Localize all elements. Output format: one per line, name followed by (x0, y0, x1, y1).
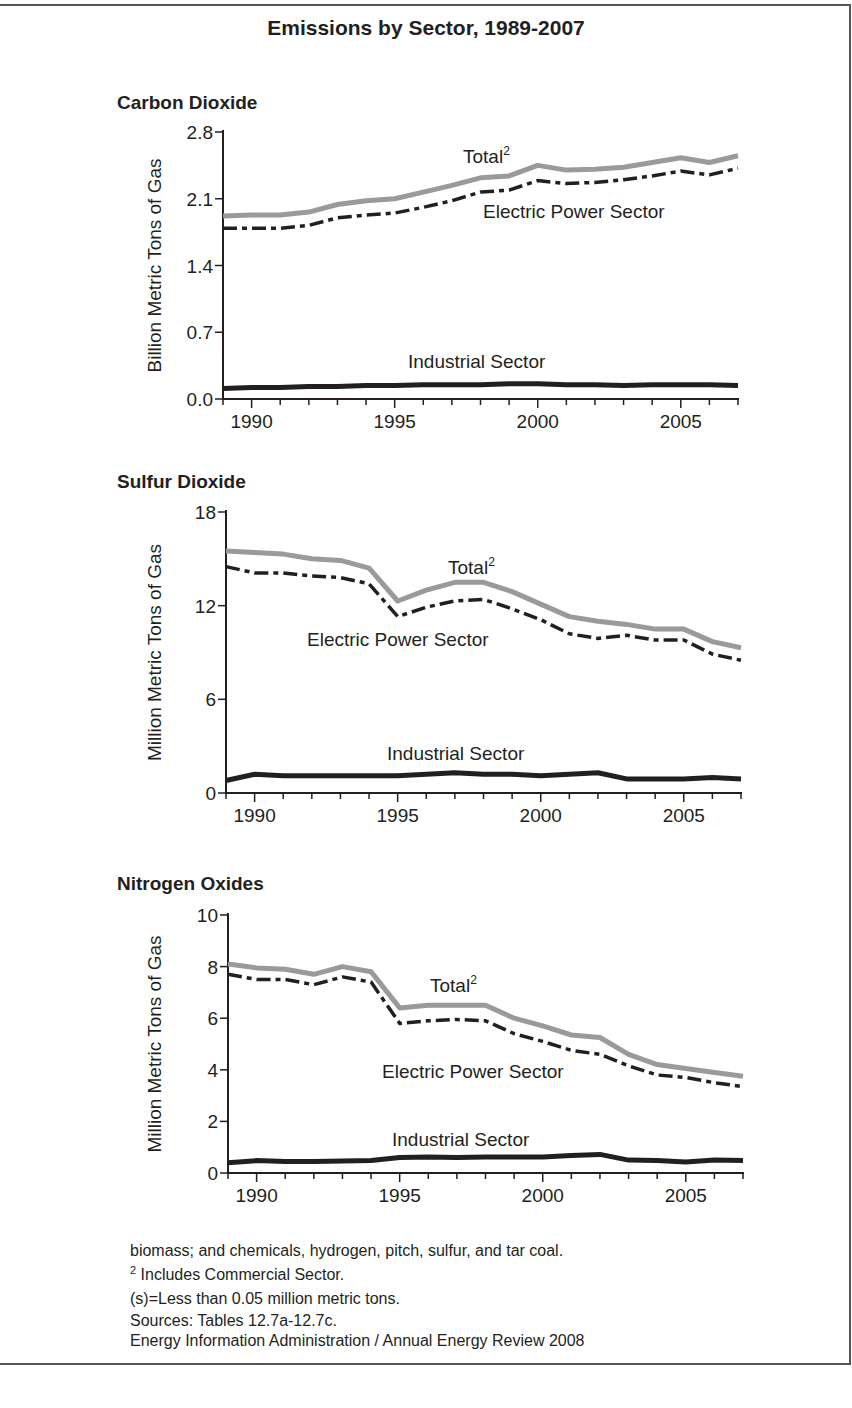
footnote-line-2: 2 Includes Commercial Sector. (130, 1263, 584, 1287)
y-tick-label: 18 (195, 502, 216, 523)
chart-sulfur-dioxide: 0612181990199520002005Million Metric Ton… (0, 495, 852, 845)
series-industrial-sector (228, 1154, 743, 1162)
y-axis-title: Million Metric Tons of Gas (144, 935, 165, 1152)
y-tick-label: 6 (207, 1008, 218, 1029)
series-label: Industrial Sector (392, 1129, 530, 1150)
x-tick-label: 2005 (663, 805, 705, 826)
footnotes: biomass; and chemicals, hydrogen, pitch,… (130, 1239, 584, 1351)
x-tick-label: 2000 (520, 805, 562, 826)
footnote-line-3: (s)=Less than 0.05 million metric tons. (130, 1287, 584, 1311)
y-tick-label: 12 (195, 596, 216, 617)
y-tick-label: 2.1 (187, 189, 213, 210)
x-tick-label: 2000 (522, 1185, 564, 1206)
x-tick-label: 1995 (377, 805, 419, 826)
panel-title-nitrogen-oxides: Nitrogen Oxides (117, 873, 264, 895)
series-label: Total2 (463, 144, 510, 167)
series-label: Electric Power Sector (382, 1061, 564, 1082)
x-tick-label: 1990 (235, 1185, 277, 1206)
y-tick-label: 0 (207, 1163, 218, 1184)
footnote-line-1: biomass; and chemicals, hydrogen, pitch,… (130, 1239, 584, 1263)
y-axis-title: Million Metric Tons of Gas (144, 544, 165, 761)
series-industrial-sector (226, 773, 741, 781)
y-axis-title: Billion Metric Tons of Gas (144, 158, 165, 372)
series-label: Electric Power Sector (483, 201, 665, 222)
x-tick-label: 2005 (665, 1185, 707, 1206)
series-industrial-sector (223, 384, 738, 389)
panel-title-sulfur-dioxide: Sulfur Dioxide (117, 471, 246, 493)
x-tick-label: 2000 (517, 411, 559, 432)
series-label: Industrial Sector (408, 351, 546, 372)
x-tick-label: 1990 (230, 411, 272, 432)
x-tick-label: 1995 (379, 1185, 421, 1206)
y-tick-label: 2 (207, 1111, 218, 1132)
series-label: Total2 (430, 973, 477, 996)
y-tick-label: 0 (205, 783, 216, 804)
series-label: Electric Power Sector (307, 629, 489, 650)
x-tick-label: 2005 (660, 411, 702, 432)
y-tick-label: 10 (197, 905, 218, 926)
footnote-publisher: Energy Information Administration / Annu… (130, 1331, 584, 1351)
y-tick-label: 4 (207, 1060, 218, 1081)
y-tick-label: 0.7 (187, 322, 213, 343)
chart-carbon-dioxide: 0.00.71.42.12.81990199520002005Billion M… (0, 110, 852, 450)
y-tick-label: 2.8 (187, 122, 213, 143)
x-tick-label: 1990 (233, 805, 275, 826)
series-label: Industrial Sector (387, 743, 525, 764)
y-tick-label: 1.4 (187, 256, 214, 277)
footnote-sources: Sources: Tables 12.7a-12.7c. (130, 1311, 584, 1331)
y-tick-label: 8 (207, 957, 218, 978)
series-label: Total2 (448, 555, 495, 578)
x-tick-label: 1995 (374, 411, 416, 432)
figure-title: Emissions by Sector, 1989-2007 (0, 16, 852, 40)
chart-nitrogen-oxides: 02468101990199520002005Million Metric To… (0, 895, 852, 1225)
y-tick-label: 6 (205, 689, 216, 710)
y-tick-label: 0.0 (187, 389, 213, 410)
